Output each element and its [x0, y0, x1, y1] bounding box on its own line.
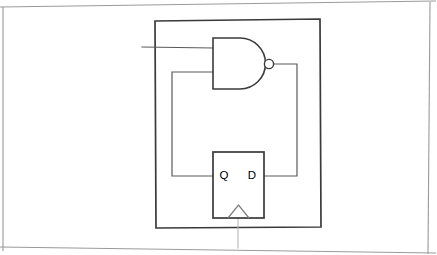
nand-output-wire: [264, 64, 297, 176]
flip-flop-q-label: Q: [217, 169, 231, 181]
paper-edge-top: [0, 1, 436, 7]
flip-flop-d-label: D: [245, 169, 259, 181]
flip-flop-box: [213, 152, 264, 218]
paper-edge-bottom: [0, 247, 436, 253]
nand-gate-body: [213, 38, 266, 89]
circuit-diagram: [0, 0, 437, 255]
schematic-canvas: Q D: [0, 0, 437, 255]
nand-inversion-bubble-icon: [264, 59, 273, 68]
paper-edge-right: [428, 2, 430, 254]
nand-gate: [213, 38, 274, 89]
primary-input-wire: [142, 47, 213, 48]
flip-flop: [213, 152, 264, 218]
feedback-wire: [172, 72, 213, 176]
